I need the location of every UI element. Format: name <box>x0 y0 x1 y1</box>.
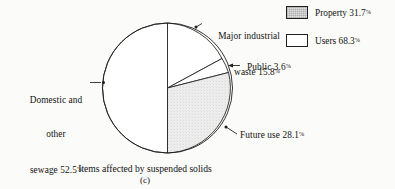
slice-label-domestic-line1: Domestic and <box>8 95 104 106</box>
legend-item-property: Property 31.7% <box>286 6 392 19</box>
slice-label-domestic-line2: other <box>8 129 104 140</box>
percent-symbol-property: % <box>366 8 371 15</box>
legend-swatch-users <box>286 34 308 47</box>
percent-symbol-public: % <box>286 62 291 69</box>
figure-panel: Domestic and other sewage 52.5% Major in… <box>0 0 395 189</box>
slice-label-major-industrial-waste: Major industrial waste 15.8% <box>148 8 280 101</box>
slice-label-public: Public 3.6% <box>247 60 291 73</box>
figure-id: (c) <box>0 175 290 186</box>
legend-swatch-property <box>286 6 308 19</box>
legend-item-users: Users 68.3% <box>286 34 392 47</box>
slice-label-future-text: Future use 28.1 <box>240 130 299 140</box>
legend-label-property: Property 31.7% <box>315 6 371 19</box>
figure-caption: Items affected by suspended solids <box>0 163 290 175</box>
legend: Property 31.7% Users 68.3% <box>286 6 392 62</box>
legend-label-users: Users 68.3% <box>315 34 360 47</box>
leader-future <box>226 127 237 134</box>
slice-label-public-text: Public 3.6 <box>247 62 286 72</box>
slice-label-future-use: Future use 28.1% <box>240 128 304 141</box>
percent-symbol-users: % <box>355 36 360 43</box>
percent-symbol-future: % <box>299 130 304 137</box>
slice-label-major-line1: Major industrial <box>148 31 280 42</box>
